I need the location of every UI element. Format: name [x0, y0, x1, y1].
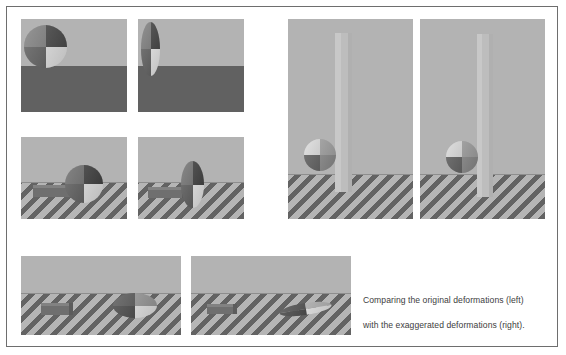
sphere-shading: [446, 141, 478, 173]
sphere-body-flattened: [113, 293, 157, 318]
bar-side-face: [69, 303, 73, 315]
column-shadow-face: [348, 33, 352, 192]
vertical-column: [477, 34, 493, 197]
sphere-body: [65, 165, 103, 203]
sphere-shading: [113, 293, 157, 318]
caption-line-2: with the exaggerated deformations (right…: [363, 319, 553, 332]
sphere-body: [24, 25, 67, 68]
panel-column-sphere-exaggerated: [420, 19, 545, 219]
panel-sphere-exaggerated-solid-floor: [138, 19, 244, 112]
panel-sphere-bar-original-hatched-floor: [21, 137, 127, 219]
horizontal-bar: [41, 303, 73, 315]
solid-floor: [21, 66, 127, 112]
vertical-column: [335, 33, 352, 192]
panel-sphere-original-solid-floor: [21, 19, 127, 112]
sphere-body: [446, 141, 478, 173]
floor-edge-line: [21, 293, 181, 294]
panel-flattened-sphere-exaggerated: [191, 256, 351, 335]
sphere-body: [304, 139, 336, 171]
sphere-body-stretched: [181, 161, 204, 208]
sphere-body-stretched: [141, 22, 160, 76]
sphere-shading: [181, 161, 204, 208]
figure-frame: Comparing the original deformations (lef…: [6, 6, 558, 347]
figure-caption: Comparing the original deformations (lef…: [363, 281, 553, 344]
column-shadow-face: [489, 34, 493, 197]
panel-sphere-bar-exaggerated-hatched-floor: [138, 137, 244, 219]
panel-flattened-sphere-original: [21, 256, 181, 335]
bar-side-face: [233, 304, 237, 314]
floor-edge-line: [191, 293, 351, 294]
panel-column-sphere-original: [288, 19, 413, 219]
sphere-shading: [65, 165, 103, 203]
sphere-shading: [141, 22, 160, 76]
sphere-shading: [24, 25, 67, 68]
caption-line-1: Comparing the original deformations (lef…: [363, 294, 553, 307]
horizontal-bar: [207, 304, 237, 314]
sphere-shading: [304, 139, 336, 171]
